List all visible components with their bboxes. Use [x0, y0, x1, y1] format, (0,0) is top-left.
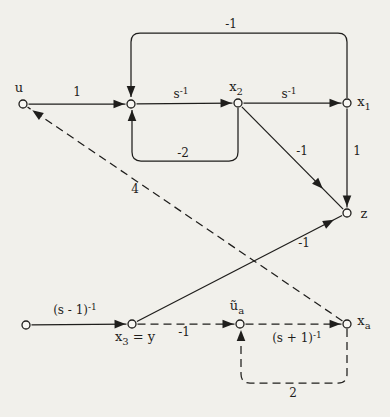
- node-x2: [234, 99, 242, 107]
- arrowhead-xa-u: [32, 110, 44, 120]
- arrowhead-x3y-z: [322, 220, 334, 229]
- arrowhead-x2-n1-bottom: [128, 110, 137, 121]
- gain-label-n1-x2: s-1: [174, 86, 189, 102]
- edge-b-x3y: [31, 324, 126, 325]
- node-label-z: z: [361, 206, 368, 221]
- scanned-page: 1s-1s-1-1-2-11-14(s - 1)-1-1(s + 1)-12ux…: [0, 0, 390, 417]
- node-n1: [127, 100, 135, 108]
- node-label-x3y: x3 = y: [115, 329, 156, 347]
- node-u: [19, 100, 27, 108]
- node-x1: [343, 99, 351, 107]
- edge-xa-u: [28, 107, 343, 321]
- gain-label-x3y-z: -1: [298, 236, 310, 250]
- gain-label-x1-z: 1: [353, 144, 361, 158]
- arrowhead-x1-z: [343, 196, 352, 207]
- arrowhead-xa-ua-bottom: [237, 330, 246, 341]
- gain-label-xa-ua-bottom: 2: [289, 386, 297, 400]
- edge-x2-z: [242, 107, 343, 209]
- node-label-xa: xa: [357, 313, 370, 331]
- signal-flow-graph: 1s-1s-1-1-2-11-14(s - 1)-1-1(s + 1)-12ux…: [0, 0, 390, 417]
- node-label-x1: x1: [357, 94, 371, 112]
- node-ua: [236, 320, 244, 328]
- arrowhead-u-n1: [114, 100, 125, 109]
- gain-label-b-x3y: (s - 1)-1: [53, 302, 97, 318]
- gain-label-x3y-ua: -1: [178, 325, 190, 339]
- node-b: [22, 321, 30, 329]
- node-xa: [343, 320, 351, 328]
- node-label-ua: ũa: [230, 298, 244, 316]
- arrowhead-b-x3y: [115, 320, 126, 329]
- node-z: [343, 209, 351, 217]
- gain-label-x1-n1-top: -1: [225, 17, 237, 31]
- edge-n1-x2: [136, 103, 232, 104]
- gain-label-x2-z: -1: [296, 144, 308, 158]
- gain-label-x2-x1: s-1: [282, 86, 297, 102]
- gain-label-u-n1: 1: [73, 85, 81, 99]
- gain-label-ua-xa: (s + 1)-1: [272, 330, 322, 346]
- arrowhead-n1-x2: [221, 99, 232, 108]
- node-label-x2: x2: [229, 79, 243, 97]
- arrowhead-x3y-ua: [223, 320, 234, 329]
- arrowhead-ua-xa: [330, 320, 341, 329]
- arrowhead-x2-x1: [330, 99, 341, 108]
- gain-label-xa-u: 4: [131, 182, 139, 196]
- node-x3y: [128, 320, 136, 328]
- gain-label-x2-n1-bottom: -2: [177, 146, 189, 160]
- node-label-u: u: [15, 80, 23, 95]
- arrowhead-x1-n1-top: [127, 86, 136, 97]
